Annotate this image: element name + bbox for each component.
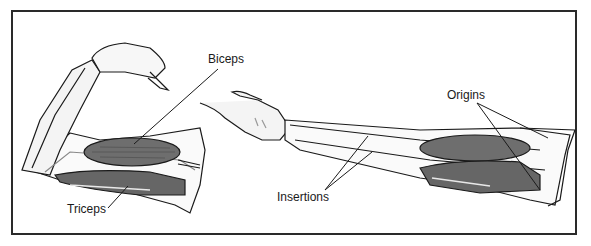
label-origins: Origins — [447, 88, 485, 102]
label-insertions: Insertions — [277, 190, 329, 204]
label-biceps: Biceps — [208, 52, 244, 66]
forearm-upper-muscle — [420, 135, 530, 161]
extended-arm — [200, 91, 575, 206]
flexed-arm — [22, 43, 205, 213]
label-triceps: Triceps — [67, 202, 106, 216]
